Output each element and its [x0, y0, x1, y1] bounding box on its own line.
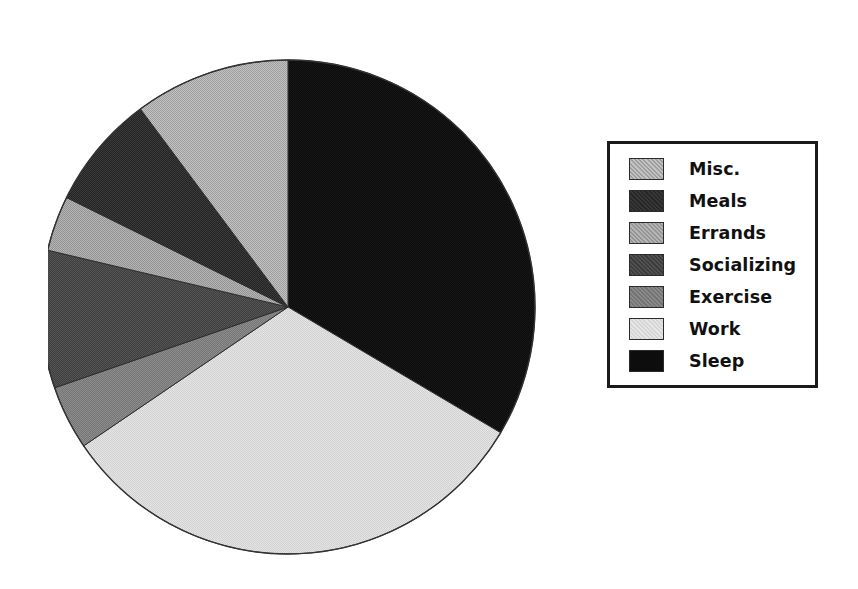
pie-chart-figure: Misc. Meals Errands Socializing Exercise [0, 0, 858, 589]
pie-slice-group [48, 60, 535, 554]
legend-label-errands: Errands [689, 223, 766, 243]
legend-label-work: Work [689, 319, 740, 339]
legend-swatch-misc [629, 158, 664, 180]
legend-swatch-errands [629, 222, 664, 244]
legend-item-errands[interactable]: Errands [610, 217, 815, 248]
legend-item-exercise[interactable]: Exercise [610, 281, 815, 312]
legend-label-meals: Meals [689, 191, 747, 211]
legend-item-misc[interactable]: Misc. [610, 153, 815, 184]
pie-chart-svg [48, 38, 538, 558]
legend-item-meals[interactable]: Meals [610, 185, 815, 216]
legend-label-exercise: Exercise [689, 287, 772, 307]
legend-swatch-socializing [629, 254, 664, 276]
legend-label-misc: Misc. [689, 159, 740, 179]
legend-item-socializing[interactable]: Socializing [610, 249, 815, 280]
legend-label-sleep: Sleep [689, 351, 744, 371]
pie-chart-plot-area [48, 38, 538, 558]
legend-swatch-meals [629, 190, 664, 212]
legend-swatch-work [629, 318, 664, 340]
legend-item-sleep[interactable]: Sleep [610, 345, 815, 376]
legend-swatch-exercise [629, 286, 664, 308]
legend: Misc. Meals Errands Socializing Exercise [607, 141, 818, 388]
legend-item-work[interactable]: Work [610, 313, 815, 344]
legend-swatch-sleep [629, 350, 664, 372]
legend-label-socializing: Socializing [689, 255, 796, 275]
legend-items: Misc. Meals Errands Socializing Exercise [610, 153, 815, 376]
